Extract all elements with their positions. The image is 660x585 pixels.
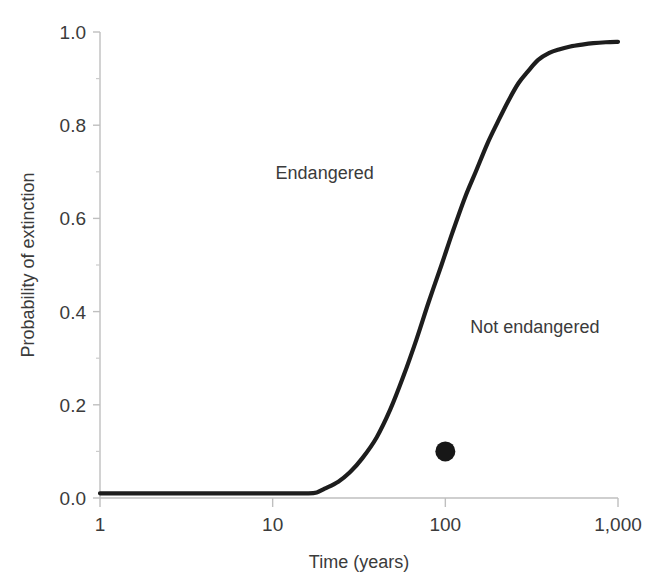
y-tick-label: 0.6 [60,208,86,229]
y-tick-label: 0.4 [60,302,87,323]
x-tick-label: 1,000 [594,514,642,535]
data-point-group [435,441,455,461]
x-axis-tick-labels: 1101001,000 [95,514,642,535]
y-tick-label: 0.0 [60,488,86,509]
extinction-probability-curve [100,42,618,494]
chart-canvas: 0.00.20.40.60.81.0 1101001,000 Probabili… [0,0,660,585]
x-axis-ticks [100,498,618,507]
y-axis-ticks [93,32,100,498]
endangered-label: Endangered [276,163,374,183]
x-axis-title: Time (years) [309,552,409,572]
y-tick-label: 0.2 [60,395,86,416]
y-axis-tick-labels: 0.00.20.40.60.81.0 [60,22,87,509]
x-tick-label: 10 [262,514,283,535]
x-tick-label: 1 [95,514,106,535]
y-tick-label: 0.8 [60,115,86,136]
observed-population-point [435,441,455,461]
y-axis-title: Probability of extinction [18,172,38,357]
chart-annotations: EndangeredNot endangered [276,163,600,337]
extinction-risk-chart: 0.00.20.40.60.81.0 1101001,000 Probabili… [0,0,660,585]
not-endangered-label: Not endangered [470,317,599,337]
x-tick-label: 100 [429,514,461,535]
y-tick-label: 1.0 [60,22,86,43]
